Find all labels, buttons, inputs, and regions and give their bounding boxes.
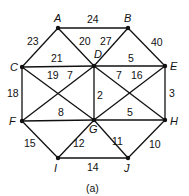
edge-weight-I-J: 14 xyxy=(87,161,99,173)
edge-F-G xyxy=(22,120,94,121)
node-D xyxy=(92,64,96,68)
node-label-F: F xyxy=(9,115,17,127)
node-G xyxy=(92,118,96,122)
figure-caption: (a) xyxy=(86,182,99,194)
edge-weight-G-J: 11 xyxy=(112,135,123,147)
node-label-D: D xyxy=(94,48,102,60)
edge-weight-F-I: 15 xyxy=(24,137,36,149)
edge-weight-D-H: 7 xyxy=(116,69,122,81)
node-C xyxy=(20,65,24,69)
node-label-A: A xyxy=(53,12,61,24)
node-B xyxy=(126,26,130,30)
node-I xyxy=(56,156,60,160)
node-F xyxy=(20,119,24,123)
edge-weight-A-C: 23 xyxy=(27,35,39,47)
node-label-G: G xyxy=(89,123,98,135)
edge-weight-E-H: 3 xyxy=(169,87,175,99)
edge-weight-G-H: 5 xyxy=(127,106,133,118)
node-label-B: B xyxy=(124,12,131,24)
edge-weight-C-D: 21 xyxy=(51,52,63,64)
edge-weight-B-E: 40 xyxy=(151,36,163,48)
node-H xyxy=(163,118,167,122)
weighted-graph: 24232027402118197271653851512111014ABCDE… xyxy=(0,0,189,196)
edge-weight-D-G: 2 xyxy=(97,89,103,101)
edge-B-D xyxy=(94,28,128,66)
edge-weight-F-G: 8 xyxy=(58,106,64,118)
node-E xyxy=(163,64,167,68)
node-label-H: H xyxy=(170,115,178,127)
edge-weight-B-D: 27 xyxy=(100,35,112,47)
node-label-C: C xyxy=(10,61,18,73)
edge-weight-C-G: 19 xyxy=(47,69,59,81)
edge-weight-G-I: 12 xyxy=(73,137,85,149)
edge-weight-H-J: 10 xyxy=(149,138,161,150)
node-label-E: E xyxy=(170,60,178,72)
edge-weight-F-D: 7 xyxy=(67,69,73,81)
node-label-J: J xyxy=(123,162,130,174)
edge-C-D xyxy=(22,66,94,67)
edge-weight-G-E: 16 xyxy=(131,69,143,81)
edge-weight-D-E: 5 xyxy=(128,52,134,64)
edge-weight-C-F: 18 xyxy=(7,87,19,99)
edge-weight-A-B: 24 xyxy=(87,13,99,25)
edge-weight-A-D: 20 xyxy=(79,35,91,47)
edge-A-D xyxy=(58,28,94,66)
node-A xyxy=(56,26,60,30)
node-label-I: I xyxy=(54,162,57,174)
node-J xyxy=(126,156,130,160)
